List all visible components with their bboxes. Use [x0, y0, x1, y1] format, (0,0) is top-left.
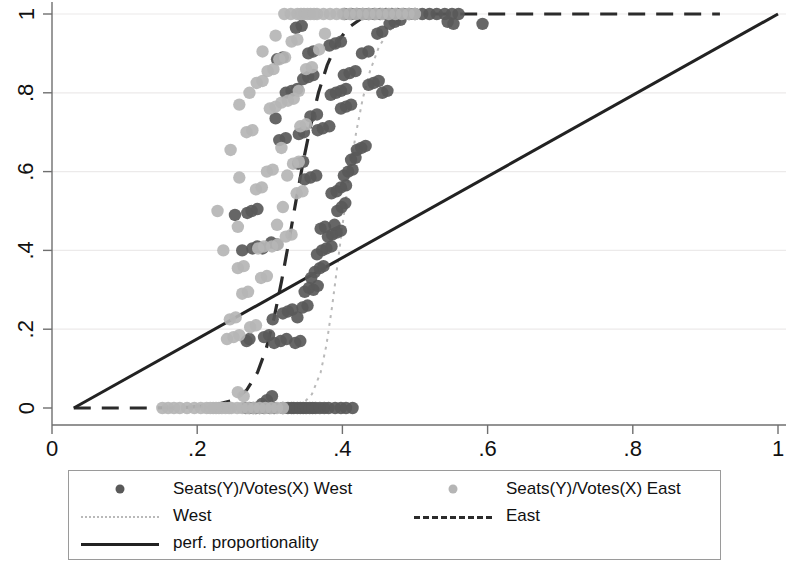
svg-text:.8: .8: [14, 84, 39, 102]
chart-screenshot: 0.2.4.6.81 0.2.4.6.81 Seats(Y)/Votes(X) …: [0, 0, 790, 569]
svg-text:.6: .6: [478, 436, 496, 461]
svg-text:0: 0: [46, 436, 58, 461]
legend-key-east-dashed-line: [414, 507, 492, 525]
svg-text:.6: .6: [14, 162, 39, 180]
legend-key-solid-line: [81, 534, 159, 552]
svg-text:.4: .4: [14, 241, 39, 259]
svg-text:0: 0: [14, 402, 39, 414]
legend-key-west-dotted-line: [81, 507, 159, 525]
legend-entry-west-points[interactable]: Seats(Y)/Votes(X) West: [81, 479, 352, 499]
svg-text:.4: .4: [333, 436, 351, 461]
legend-entry-proportionality[interactable]: perf. proportionality: [81, 533, 319, 553]
plot-area: 0.2.4.6.81 0.2.4.6.81: [0, 0, 790, 462]
y-axis-tick-labels: 0.2.4.6.81: [14, 8, 39, 414]
legend-entry-east-points[interactable]: Seats(Y)/Votes(X) East: [414, 479, 681, 499]
svg-text:.8: .8: [624, 436, 642, 461]
svg-text:1: 1: [14, 8, 39, 20]
legend-label-west-fit: West: [173, 506, 211, 526]
x-axis-tick-labels: 0.2.4.6.81: [46, 436, 784, 461]
scatter-points: [156, 8, 489, 414]
svg-text:.2: .2: [14, 320, 39, 338]
chart-legend: Seats(Y)/Votes(X) West Seats(Y)/Votes(X)…: [68, 470, 721, 560]
legend-key-east-dot: [414, 480, 492, 498]
legend-key-west-dot: [81, 480, 159, 498]
legend-entry-east-fit[interactable]: East: [414, 506, 540, 526]
legend-label-west-points: Seats(Y)/Votes(X) West: [173, 479, 352, 499]
svg-text:.2: .2: [188, 436, 206, 461]
fit-lines: [74, 14, 778, 408]
svg-text:1: 1: [772, 436, 784, 461]
legend-entry-west-fit[interactable]: West: [81, 506, 211, 526]
legend-label-east-fit: East: [506, 506, 540, 526]
legend-label-proportionality: perf. proportionality: [173, 533, 319, 553]
scatter-plot-svg: 0.2.4.6.81 0.2.4.6.81: [0, 0, 790, 462]
gridlines: [52, 14, 786, 329]
legend-label-east-points: Seats(Y)/Votes(X) East: [506, 479, 681, 499]
